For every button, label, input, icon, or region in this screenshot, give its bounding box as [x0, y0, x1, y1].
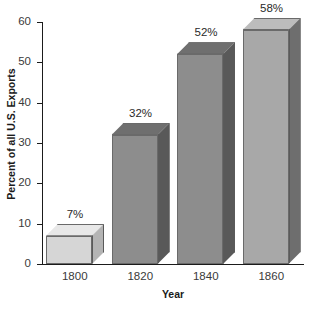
y-axis-tick-label: 10	[9, 218, 31, 229]
y-axis-tick-label: 20	[9, 177, 31, 188]
bar-side-face	[289, 18, 301, 264]
bar-value-label: 32%	[112, 107, 170, 119]
bar-1840	[177, 42, 235, 264]
x-axis-title: Year	[42, 288, 304, 300]
bar-1800	[46, 224, 104, 264]
bar-front-face	[243, 30, 289, 264]
y-axis-tick-label: 40	[9, 97, 31, 108]
bar-side-face	[223, 42, 235, 264]
bar-side-face	[92, 224, 104, 264]
x-axis-tick-label: 1860	[239, 270, 305, 282]
x-axis-tick-label: 1820	[108, 270, 174, 282]
bar-value-label: 52%	[177, 26, 235, 38]
bar-front-face	[112, 135, 158, 264]
bar-value-label: 7%	[46, 208, 104, 220]
bar-side-face	[158, 123, 170, 264]
bar-front-face	[177, 54, 223, 264]
bar-1820	[112, 123, 170, 264]
y-axis-tick-label: 50	[9, 56, 31, 67]
plot-area	[42, 0, 304, 265]
y-axis-tick-label: 30	[9, 137, 31, 148]
bar-front-face	[46, 236, 92, 264]
bar-1860	[243, 18, 301, 264]
bar-value-label: 58%	[243, 2, 301, 14]
bar-chart: Percent of all U.S. Exports 010203040506…	[0, 0, 310, 310]
x-axis-tick-label: 1840	[173, 270, 239, 282]
y-axis-tick-label: 60	[9, 16, 31, 27]
x-axis-tick-label: 1800	[42, 270, 108, 282]
y-axis-tick-label: 0	[9, 258, 31, 269]
